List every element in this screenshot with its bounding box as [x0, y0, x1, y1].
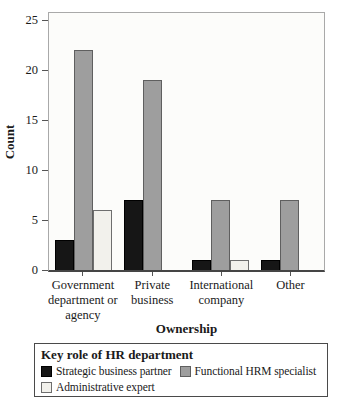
- legend-label: Strategic business partner: [56, 363, 172, 379]
- bar: [93, 210, 112, 270]
- x-tick-mark: [152, 272, 153, 276]
- legend-swatch: [41, 382, 52, 393]
- category-label: Other: [256, 272, 325, 323]
- bar: [261, 260, 280, 270]
- legend-title: Key role of HR department: [41, 347, 321, 363]
- y-tick-label: 5: [10, 212, 38, 228]
- bar-slot: [74, 50, 93, 270]
- bar-slot: [192, 260, 211, 270]
- bar-group: [187, 13, 256, 270]
- legend-box: Key role of HR department Strategic busi…: [34, 343, 328, 397]
- legend-swatch: [180, 366, 191, 377]
- category-label-line: department or: [48, 293, 118, 308]
- legend-item: Strategic business partner: [41, 363, 172, 379]
- bar-group: [118, 13, 187, 270]
- bar: [230, 260, 249, 270]
- category-label-line: company: [187, 293, 256, 308]
- x-tick-mark: [290, 272, 291, 276]
- bar: [55, 240, 74, 270]
- bar-slot: [280, 200, 299, 270]
- legend-label: Functional HRM specialist: [195, 363, 316, 379]
- y-tick-label: 20: [10, 62, 38, 78]
- bars-container: [49, 13, 324, 270]
- category-label-line: Private: [118, 278, 187, 293]
- bar-slot: [230, 260, 249, 270]
- category-label-line: International: [187, 278, 256, 293]
- x-tick-mark: [82, 272, 83, 276]
- category-label-line: business: [118, 293, 187, 308]
- bar: [124, 200, 143, 270]
- x-axis-category-labels: Governmentdepartment oragencyPrivatebusi…: [48, 272, 325, 323]
- bar-group: [255, 13, 324, 270]
- y-axis: 0510152025: [0, 12, 48, 272]
- legend-label: Administrative expert: [56, 379, 155, 395]
- bar: [211, 200, 230, 270]
- bar: [280, 200, 299, 270]
- x-tick-mark: [221, 272, 222, 276]
- bar-slot: [261, 260, 280, 270]
- plot-area: [48, 12, 325, 272]
- y-tick-label: 15: [10, 112, 38, 128]
- bar: [143, 80, 162, 270]
- legend-swatch: [41, 366, 52, 377]
- x-axis-title: Ownership: [48, 321, 325, 337]
- bar-group: [49, 13, 118, 270]
- bar: [74, 50, 93, 270]
- legend-row: Strategic business partnerFunctional HRM…: [41, 363, 321, 379]
- y-tick-label: 0: [10, 262, 38, 278]
- category-label-line: Government: [48, 278, 118, 293]
- bar-slot: [211, 200, 230, 270]
- legend-entries: Strategic business partnerFunctional HRM…: [41, 363, 321, 395]
- legend-item: Functional HRM specialist: [180, 363, 316, 379]
- bar-slot: [143, 80, 162, 270]
- category-label: Governmentdepartment oragency: [48, 272, 118, 323]
- bar-slot: [124, 200, 143, 270]
- y-tick-label: 10: [10, 162, 38, 178]
- legend-item: Administrative expert: [41, 379, 155, 395]
- category-label-line: Other: [256, 278, 325, 293]
- legend-row: Administrative expert: [41, 379, 321, 395]
- hr-role-by-ownership-bar-chart: Count 0510152025 Governmentdepartment or…: [0, 0, 337, 410]
- y-tick-label: 25: [10, 12, 38, 28]
- bar-slot: [93, 210, 112, 270]
- category-label: Internationalcompany: [187, 272, 256, 323]
- bar: [192, 260, 211, 270]
- bar-slot: [55, 240, 74, 270]
- category-label: Privatebusiness: [118, 272, 187, 323]
